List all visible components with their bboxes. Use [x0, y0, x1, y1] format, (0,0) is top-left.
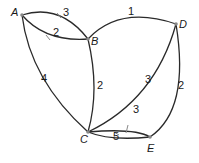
vertex-label-e: E — [147, 143, 154, 154]
arrow-marker-b-a — [46, 35, 50, 40]
vertex-d-dot — [174, 22, 178, 26]
edge-c-d-3 — [88, 24, 176, 132]
weight-b-a: 2 — [53, 27, 59, 38]
vertex-label-c: C — [80, 134, 88, 145]
edge-b-d-1 — [88, 17, 176, 39]
weight-e-c: 5 — [113, 131, 119, 142]
vertex-a-dot — [20, 13, 24, 17]
vertex-label-a: A — [11, 7, 18, 18]
edge-b-c-2 — [88, 39, 94, 132]
weight-c-e: 3 — [133, 104, 139, 115]
vertex-e-dot — [148, 135, 152, 139]
weight-c-d: 3 — [145, 74, 151, 85]
weight-a-c: 4 — [41, 73, 47, 84]
weight-b-d: 1 — [128, 6, 134, 17]
weight-a-b: 3 — [63, 7, 69, 18]
vertex-label-d: D — [179, 19, 187, 30]
edge-d-e-2 — [150, 24, 180, 137]
vertex-b-dot — [86, 37, 90, 41]
weight-d-e: 2 — [178, 80, 184, 91]
vertex-label-b: B — [91, 36, 98, 47]
weight-b-c: 2 — [97, 80, 103, 91]
